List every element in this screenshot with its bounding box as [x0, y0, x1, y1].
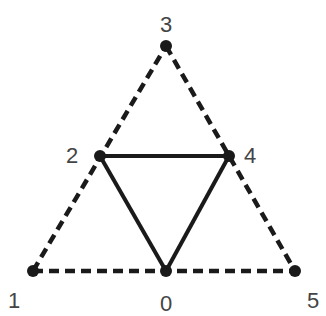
node-label-3: 3 [160, 12, 172, 37]
node-label-4: 4 [244, 143, 256, 168]
node-1 [27, 265, 39, 277]
node-2 [94, 150, 106, 162]
edge-4-0-solid [166, 156, 229, 271]
triangle-graph-diagram: 012345 [0, 0, 326, 316]
node-4 [223, 150, 235, 162]
node-label-1: 1 [8, 288, 20, 313]
edge-2-0-solid [100, 156, 166, 271]
node-5 [289, 265, 301, 277]
node-label-0: 0 [160, 291, 172, 316]
node-0 [160, 265, 172, 277]
node-3 [160, 40, 172, 52]
node-label-5: 5 [307, 288, 319, 313]
node-label-2: 2 [66, 143, 78, 168]
